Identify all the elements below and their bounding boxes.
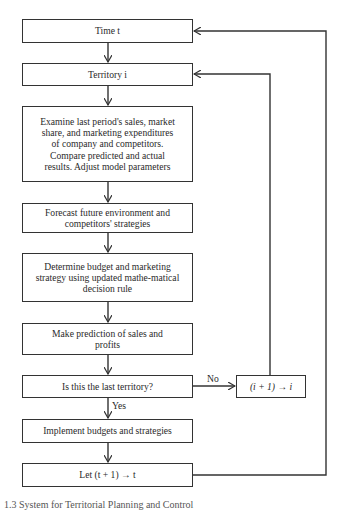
node-increment-i-label: (i + 1) → i [250,381,292,392]
edge-label-yes: Yes [112,400,126,411]
node-increment-t: Let (t + 1) → t [22,463,193,487]
node-examine-label: Examine last period's sales, market shar… [37,116,178,172]
node-increment-i: (i + 1) → i [236,375,306,398]
node-implement: Implement budgets and strategies [22,419,193,443]
node-implement-label: Implement budgets and strategies [43,425,172,436]
figure-caption: 1.3 System for Territorial Planning and … [4,499,193,510]
node-increment-t-label: Let (t + 1) → t [79,469,135,480]
node-determine: Determine budget and marketing strategy … [22,253,193,302]
node-territory: Territory i [22,63,193,86]
edge-label-no: No [207,373,219,384]
node-territory-label: Territory i [88,69,127,80]
node-forecast: Forecast future environment and competit… [22,203,193,233]
node-time: Time t [22,19,193,43]
node-predict-label: Make prediction of sales and profits [45,328,170,350]
node-decision-label: Is this the last territory? [62,381,153,392]
node-determine-label: Determine budget and marketing strategy … [33,261,182,295]
node-forecast-label: Forecast future environment and competit… [43,207,172,229]
node-decision: Is this the last territory? [22,375,193,398]
node-predict: Make prediction of sales and profits [22,323,193,355]
node-examine: Examine last period's sales, market shar… [22,106,193,182]
node-time-label: Time t [95,25,120,36]
